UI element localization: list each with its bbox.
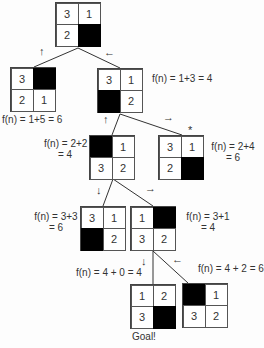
tile: 1 (131, 285, 154, 308)
puzzle-board-l2-right: 3 1 2 (158, 135, 204, 180)
puzzle-board-l2-left: 1 3 2 (89, 135, 135, 180)
tile: 1 (78, 3, 101, 26)
move-up-arrow-icon: ↑ (103, 114, 109, 125)
puzzle-board-l1-left: 3 2 1 (10, 67, 56, 112)
tile: 1 (112, 136, 135, 159)
fn-label-l1-left: f(n) = 1+5 = 6 (2, 114, 62, 125)
blank-tile (33, 68, 56, 91)
tile: 3 (183, 305, 206, 328)
fn-label-l3-left-line2: = 6 (34, 222, 78, 233)
tile: 3 (159, 136, 182, 159)
fn-label-l2-right-line1: f(n) = 2+4 (210, 141, 256, 152)
tile: 1 (33, 89, 56, 112)
blank-tile (153, 306, 176, 329)
tile: 3 (131, 228, 154, 251)
fn-label-l3-right-line1: f(n) = 3+1 (186, 211, 230, 222)
fn-label-l3-left-line1: f(n) = 3+3 (34, 211, 78, 222)
tile: 2 (153, 228, 176, 251)
puzzle-board-l4-right: 1 3 2 (182, 283, 228, 328)
move-right-arrow-icon: → (145, 183, 156, 194)
fn-label-goal: f(n) = 4 + 0 = 4 (76, 267, 142, 278)
tile: 2 (56, 24, 79, 47)
fn-label-l4-right: f(n) = 4 + 2 = 6 (198, 263, 264, 274)
puzzle-board-root: 3 1 2 (55, 2, 101, 47)
move-left-arrow-icon: ← (104, 47, 115, 58)
fn-label-l3-right-line2: = 4 (186, 222, 230, 233)
tile: 2 (153, 285, 176, 308)
tile: 1 (181, 136, 204, 159)
fn-label-l2-left-line1: f(n) = 2+2 (44, 138, 86, 149)
tile: 3 (131, 306, 154, 329)
move-up-arrow-icon: ↑ (39, 46, 45, 57)
tile: 2 (159, 157, 182, 180)
tile: 3 (90, 157, 113, 180)
fn-label-l2-right-line2: = 6 (210, 152, 256, 163)
puzzle-board-goal: 1 2 3 (130, 284, 176, 329)
move-right-arrow-icon: → (163, 112, 174, 123)
tile: 2 (112, 157, 135, 180)
blank-tile (153, 207, 176, 230)
blank-tile (181, 157, 204, 180)
tile: 1 (131, 207, 154, 230)
tile: 2 (205, 305, 228, 328)
blank-tile (90, 136, 113, 159)
blank-tile (81, 228, 104, 251)
move-down-arrow-icon: ↓ (96, 185, 102, 196)
tile: 1 (205, 284, 228, 307)
blank-tile (183, 284, 206, 307)
move-left-arrow-icon: ← (172, 254, 183, 265)
tile: 1 (120, 69, 143, 92)
blank-tile (78, 24, 101, 47)
tile: 2 (11, 89, 34, 112)
goal-caption: Goal! (132, 331, 156, 342)
astar-search-tree-diagram: 3 1 2 ↑ ← 3 2 1 f(n) = 1+5 = 6 3 1 2 f(n… (0, 0, 264, 348)
tile: 3 (81, 207, 104, 230)
tile: 3 (11, 68, 34, 91)
puzzle-board-l3-left: 3 1 2 (80, 206, 126, 251)
fn-label-l2-left-line2: = 4 (44, 149, 86, 160)
puzzle-board-l1-right: 3 1 2 (97, 68, 143, 113)
move-down-arrow-icon: ↓ (141, 256, 147, 267)
tile: 3 (98, 69, 121, 92)
tile: 3 (56, 3, 79, 26)
tile: 1 (103, 207, 126, 230)
puzzle-board-l3-right: 1 3 2 (130, 206, 176, 251)
fn-label-l1-right: f(n) = 1+3 = 4 (152, 73, 212, 84)
blank-tile (98, 90, 121, 113)
tile: 2 (103, 228, 126, 251)
tile: 2 (120, 90, 143, 113)
